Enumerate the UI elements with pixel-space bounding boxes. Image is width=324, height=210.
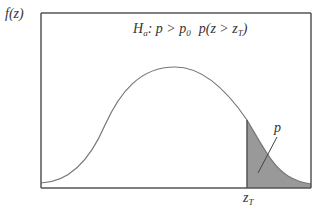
hypothesis-relation-sub: 0 [186, 28, 191, 38]
hypothesis-label: Ha: p > p0p(z > zT) [133, 22, 247, 38]
critical-value-sub: T [248, 197, 253, 207]
hypothesis-prob-close: ) [243, 21, 248, 36]
y-axis-label: f(z) [5, 7, 24, 21]
hypothesis-h: H [133, 21, 143, 36]
hypothesis-relation: : p > p [148, 21, 187, 36]
critical-value-label: zT [243, 191, 253, 207]
shaded-area-label: p [274, 121, 281, 135]
hypothesis-prob: p(z > z [199, 21, 238, 36]
